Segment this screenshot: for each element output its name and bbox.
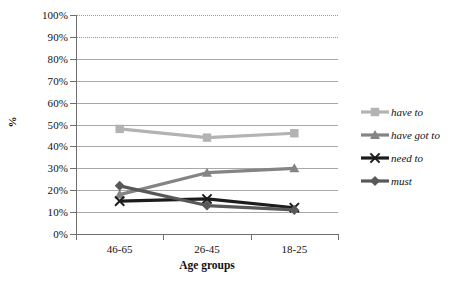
legend-item-need-to[interactable]: need to <box>360 146 464 169</box>
legend-label: have to <box>391 106 423 118</box>
legend-item-have-to[interactable]: have to <box>360 100 464 123</box>
y-tickmark <box>70 103 76 104</box>
y-tickmark <box>70 59 76 60</box>
x-tickmark <box>76 234 77 240</box>
y-tickmark <box>70 146 76 147</box>
x-axis-title: Age groups <box>76 259 338 271</box>
legend-item-have-got-to[interactable]: have got to <box>360 123 464 146</box>
x-tickmark <box>251 234 252 240</box>
y-tickmark <box>70 212 76 213</box>
legend-marker-icon <box>360 173 390 189</box>
x-tick-label: 26-45 <box>194 243 220 255</box>
legend-marker-icon <box>360 127 390 143</box>
x-tickmark <box>338 234 339 240</box>
x-tick-label: 18-25 <box>281 243 307 255</box>
legend-marker-icon <box>360 104 390 120</box>
y-tickmark <box>70 81 76 82</box>
legend-marker-icon <box>360 150 390 166</box>
y-tickmark <box>70 190 76 191</box>
legend-item-must[interactable]: must <box>360 169 464 192</box>
legend-label: must <box>391 175 412 187</box>
legend-label: need to <box>391 152 423 164</box>
y-tickmark <box>70 37 76 38</box>
line-chart: % 0%10%20%30%40%50%60%70%80%90%100% 46-6… <box>0 0 466 283</box>
data-point-marker <box>370 176 380 186</box>
data-point-marker <box>371 107 379 115</box>
y-tickmark <box>70 15 76 16</box>
chart-legend: have tohave got toneed tomust <box>360 100 464 192</box>
x-tick-label: 46-65 <box>107 243 133 255</box>
y-tickmark <box>70 125 76 126</box>
legend-label: have got to <box>391 129 440 141</box>
y-tickmark <box>70 168 76 169</box>
x-tickmark <box>163 234 164 240</box>
